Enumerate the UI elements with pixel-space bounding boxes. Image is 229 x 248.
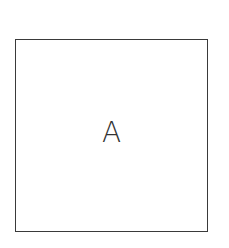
box-label: A — [16, 119, 207, 147]
square-box-a: A — [15, 39, 208, 232]
